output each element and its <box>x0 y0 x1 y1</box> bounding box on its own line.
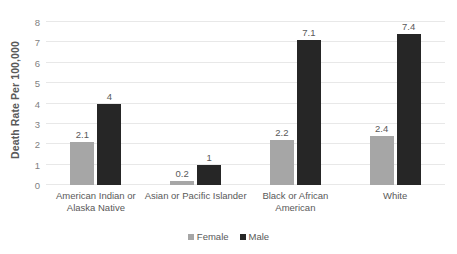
gridline <box>46 41 445 42</box>
legend-swatch-icon <box>188 234 194 240</box>
y-axis-tick-label: 7 <box>24 37 40 48</box>
y-axis-tick-label: 8 <box>24 17 40 28</box>
bar-male-2 <box>297 40 321 185</box>
legend-label: Female <box>197 231 229 242</box>
bar-female-2 <box>270 140 294 185</box>
x-axis-category-label: Asian or Pacific Islander <box>143 190 249 202</box>
bar-female-0 <box>70 142 94 185</box>
bar-chart: Death Rate Per 100,000 012345678 2.140.2… <box>0 0 457 254</box>
x-axis-category-label: White <box>342 190 448 202</box>
bar-value-label: 7.4 <box>402 21 415 32</box>
bar-value-label: 2.4 <box>375 123 388 134</box>
legend-item-male[interactable]: Male <box>240 231 270 242</box>
bar-value-label: 4 <box>107 91 112 102</box>
legend-label: Male <box>249 231 270 242</box>
y-axis-tick-label: 1 <box>24 159 40 170</box>
y-axis-tick-label: 4 <box>24 98 40 109</box>
y-axis-tick-label: 6 <box>24 57 40 68</box>
gridline <box>46 82 445 83</box>
bar-value-label: 7.1 <box>302 27 315 38</box>
x-axis-category-label: American Indian or Alaska Native <box>43 190 149 213</box>
y-axis-tick-label: 2 <box>24 139 40 150</box>
bar-male-1 <box>197 165 221 185</box>
gridline <box>46 21 445 22</box>
y-axis-tick-label: 3 <box>24 118 40 129</box>
bar-value-label: 0.2 <box>176 168 189 179</box>
plot-area: 2.140.212.27.12.47.4 <box>46 22 445 185</box>
bar-female-3 <box>370 136 394 185</box>
x-axis-category-labels: American Indian or Alaska NativeAsian or… <box>46 190 445 220</box>
bar-value-label: 2.1 <box>76 129 89 140</box>
bar-value-label: 2.2 <box>275 127 288 138</box>
bar-male-0 <box>97 104 121 186</box>
x-axis-category-label: Black or African American <box>243 190 349 213</box>
bar-female-1 <box>170 181 194 185</box>
gridline <box>46 62 445 63</box>
y-axis-tick-label: 5 <box>24 78 40 89</box>
legend-item-female[interactable]: Female <box>188 231 229 242</box>
legend-swatch-icon <box>240 234 246 240</box>
y-axis-tick-label: 0 <box>24 180 40 191</box>
bar-male-3 <box>397 34 421 185</box>
bar-value-label: 1 <box>206 152 211 163</box>
chart-legend: FemaleMale <box>0 231 457 242</box>
